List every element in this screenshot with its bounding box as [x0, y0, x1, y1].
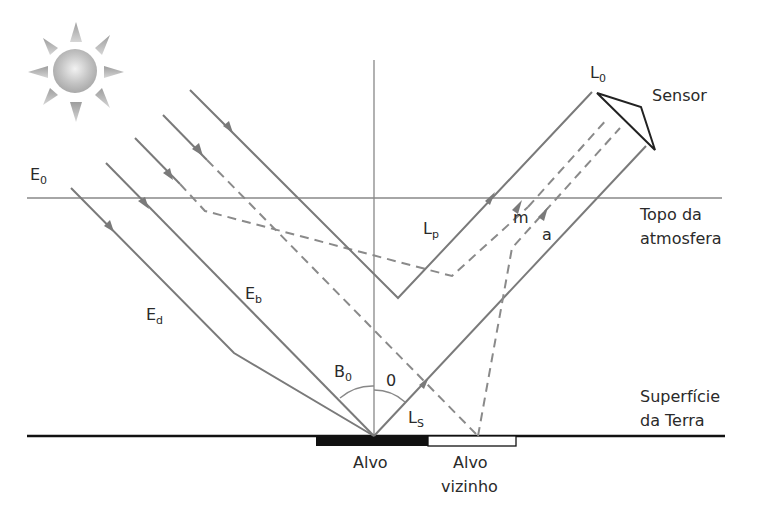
ray-eb	[106, 163, 374, 436]
label-topo-line1: Topo da	[639, 205, 702, 224]
neighbor-target-block	[428, 436, 516, 446]
label-superficie-line2: da Terra	[640, 411, 705, 430]
label-lp: Lp	[423, 219, 439, 241]
label-alvo: Alvo	[353, 453, 388, 472]
ray-m	[528, 118, 608, 207]
radiance-diagram: E0 Ed Eb B0 0 LS Lp m a L0 Sensor Topo d…	[0, 0, 758, 523]
label-ls: LS	[408, 408, 424, 430]
angle-b0-arc	[340, 386, 374, 398]
sun-icon	[28, 22, 124, 122]
ray-scatter-neighbor	[163, 115, 478, 436]
ray-scatter-m	[135, 138, 528, 276]
label-b0: B0	[334, 362, 352, 384]
label-eb: Eb	[245, 284, 262, 306]
label-alvo-vizinho-line1: Alvo	[453, 453, 488, 472]
label-topo-line2: atmosfera	[640, 229, 722, 248]
target-block	[316, 436, 428, 446]
label-a: a	[542, 225, 552, 244]
ray-ed	[71, 188, 374, 436]
label-alvo-vizinho-line2: vizinho	[441, 477, 498, 496]
label-m: m	[513, 208, 529, 227]
angle-theta-arc	[374, 390, 405, 402]
ray-a	[478, 128, 620, 436]
ray-ls	[374, 146, 646, 436]
label-sensor: Sensor	[652, 86, 707, 105]
label-ed: Ed	[146, 305, 163, 327]
label-l0: L0	[590, 63, 606, 85]
label-e0: E0	[30, 165, 47, 187]
label-superficie-line1: Superfície	[640, 387, 720, 406]
sensor-icon	[597, 93, 655, 150]
label-theta: 0	[386, 371, 396, 390]
